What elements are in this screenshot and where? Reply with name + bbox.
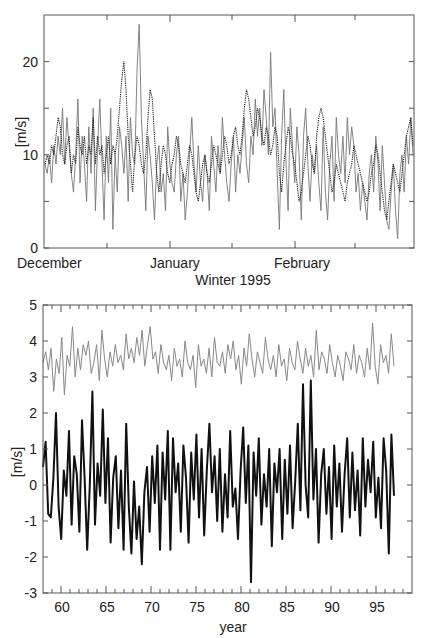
top-ytick-20: 20 — [22, 54, 38, 70]
top-y-axis-label: [m/s] — [13, 117, 29, 147]
bottom-chart: 5 4 3 2 1 0 -1 -2 -3 [m/s] 60 65 70 75 8… — [9, 297, 412, 635]
bottom-xtick-65: 65 — [99, 599, 115, 615]
upper-series-line — [43, 323, 394, 395]
bottom-ytick-5: 5 — [29, 297, 37, 313]
top-xtick-december: December — [17, 255, 82, 271]
top-chart-frame — [44, 15, 414, 248]
bottom-xtick-90: 90 — [324, 599, 340, 615]
top-x-axis-label: Winter 1995 — [195, 272, 271, 288]
figure-canvas: 0 10 20 [m/s] December January February … — [0, 0, 430, 638]
observed-line — [45, 24, 413, 238]
bottom-ytick-2: 2 — [29, 405, 37, 421]
bottom-x-axis-label: year — [219, 619, 247, 635]
bottom-ytick-4: 4 — [29, 333, 37, 349]
bottom-ytick-1: 1 — [29, 441, 37, 457]
bottom-ytick-neg1: -1 — [25, 513, 38, 529]
bottom-xtick-60: 60 — [54, 599, 70, 615]
top-ytick-10: 10 — [22, 147, 38, 163]
bottom-chart-x-tick-labels: 60 65 70 75 80 85 90 95 — [54, 599, 385, 615]
lower-series-line — [43, 381, 394, 583]
top-xtick-february: February — [274, 255, 330, 271]
bottom-ytick-3: 3 — [29, 369, 37, 385]
top-chart-series — [45, 24, 413, 238]
top-ytick-0: 0 — [30, 240, 38, 256]
top-xtick-january: January — [150, 255, 200, 271]
bottom-xtick-75: 75 — [189, 599, 205, 615]
bottom-xtick-80: 80 — [234, 599, 250, 615]
bottom-ytick-neg2: -2 — [25, 549, 38, 565]
bottom-xtick-85: 85 — [279, 599, 295, 615]
bottom-chart-series — [43, 323, 394, 582]
top-chart: 0 10 20 [m/s] December January February … — [13, 15, 414, 288]
bottom-ytick-neg3: -3 — [25, 585, 38, 601]
top-chart-ticks — [44, 15, 414, 248]
bottom-xtick-70: 70 — [144, 599, 160, 615]
bottom-xtick-95: 95 — [369, 599, 385, 615]
bottom-chart-y-tick-labels: 5 4 3 2 1 0 -1 -2 -3 — [25, 297, 38, 601]
bottom-y-axis-label: [m/s] — [9, 447, 25, 477]
bottom-ytick-0: 0 — [29, 477, 37, 493]
